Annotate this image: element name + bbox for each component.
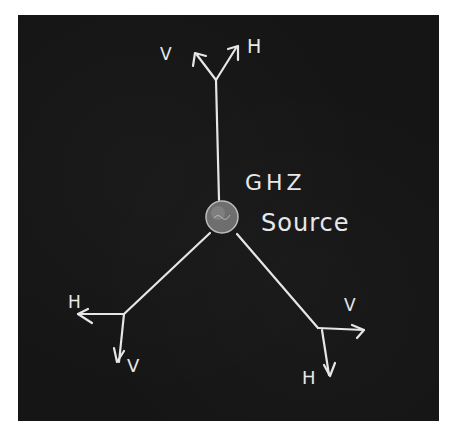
label-top-h: H bbox=[247, 35, 261, 57]
arrow-br-v bbox=[318, 325, 364, 338]
source-label-line2: Source bbox=[261, 209, 349, 237]
label-br-v: V bbox=[344, 295, 356, 315]
beam-line-bottom-right bbox=[237, 234, 318, 328]
beam-line-bottom-left bbox=[124, 233, 210, 314]
beam-line-top bbox=[216, 80, 219, 200]
arrow-bl-h bbox=[78, 309, 124, 323]
arrow-top-v bbox=[193, 53, 216, 80]
label-bl-h: H bbox=[68, 292, 81, 312]
label-br-h: H bbox=[302, 367, 316, 388]
ghz-diagram: V H H V V H GHZ Sourc bbox=[0, 0, 457, 436]
branch-bottom-right: V H bbox=[237, 234, 364, 388]
label-top-v: V bbox=[160, 44, 172, 64]
label-bl-v: V bbox=[127, 355, 140, 376]
arrow-bl-v bbox=[114, 314, 124, 362]
branch-bottom-left: H V bbox=[68, 233, 210, 376]
ghz-source bbox=[206, 201, 238, 233]
arrow-br-h bbox=[322, 330, 335, 376]
source-label-line1: GHZ bbox=[245, 170, 306, 195]
arrow-top-h bbox=[216, 46, 238, 80]
